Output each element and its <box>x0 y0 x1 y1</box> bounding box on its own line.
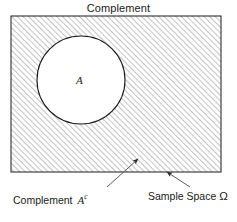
sample-space-leader-line <box>167 172 190 187</box>
complement-callout-text: Complement <box>13 194 73 206</box>
complement-callout-label: ComplementAc <box>13 190 88 207</box>
venn-diagram-canvas <box>0 0 237 222</box>
sample-space-callout-label: Sample Space Ω <box>148 190 228 203</box>
figure-title: Complement <box>0 1 237 15</box>
complement-callout-superscript: c <box>84 192 87 201</box>
venn-complement-figure: Complement <box>0 0 237 222</box>
sample-space-callout-text: Sample Space <box>148 190 216 202</box>
event-a-label: A <box>76 74 83 87</box>
omega-symbol: Ω <box>219 190 228 202</box>
